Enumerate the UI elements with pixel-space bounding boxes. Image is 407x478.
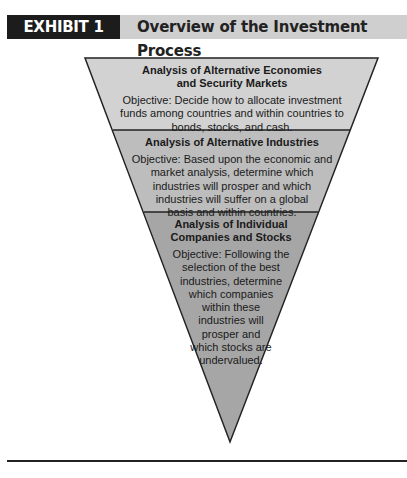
band-1-title: Analysis of Alternative Economies and Se… [95,64,369,90]
band-3-title-line: Analysis of Individual [150,218,312,231]
objective-line: which stocks are [150,341,312,354]
objective-line: market analysis, determine which [120,166,344,179]
objective-line: industries will [150,314,312,327]
band-1-title-line: Analysis of Alternative Economies [95,64,369,77]
band-3-title-line: Companies and Stocks [150,231,312,244]
objective-line: selection of the best [150,261,312,274]
band-2-objective: Objective: Based upon the economic and m… [120,153,344,219]
objective-line: industries will prosper and which [120,180,344,193]
objective-line: industries will suffer on a global [120,193,344,206]
band-1-title-line: and Security Markets [95,77,369,90]
objective-line: which companies [150,288,312,301]
band-3-title: Analysis of Individual Companies and Sto… [150,218,312,244]
objective-line: bonds, stocks, and cash. [95,121,369,134]
band-3-objective: Objective: Following the selection of th… [150,248,312,368]
band-2-text: Analysis of Alternative Industries Objec… [120,136,344,219]
objective-line: funds among countries and within countri… [95,107,369,120]
objective-line: within these [150,301,312,314]
band-2-title-line: Analysis of Alternative Industries [120,136,344,149]
band-2-title: Analysis of Alternative Industries [120,136,344,149]
objective-line: prosper and [150,328,312,341]
objective-line: Objective: Based upon the economic and [120,153,344,166]
bottom-rule [7,460,407,462]
objective-line: Objective: Following the [150,248,312,261]
objective-line: Objective: Decide how to allocate invest… [95,94,369,107]
objective-line: undervalued. [150,354,312,367]
band-1-objective: Objective: Decide how to allocate invest… [95,94,369,134]
objective-line: industries, determine [150,275,312,288]
band-3-text: Analysis of Individual Companies and Sto… [150,218,312,368]
band-1-text: Analysis of Alternative Economies and Se… [95,64,369,134]
